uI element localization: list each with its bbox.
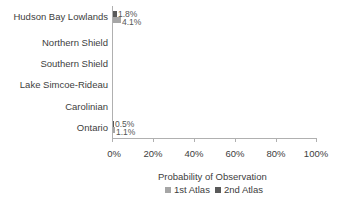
x-tick-label: 20% [143, 148, 162, 159]
category-label: Ontario [77, 122, 108, 133]
x-tick [153, 138, 154, 142]
category-label: Northern Shield [42, 37, 108, 48]
x-axis-line [112, 138, 317, 139]
x-tick [316, 138, 317, 142]
x-tick [235, 138, 236, 142]
category-label: Lake Simcoe-Rideau [20, 79, 108, 90]
x-tick-label: 40% [184, 148, 203, 159]
legend-swatch-2nd-atlas [215, 187, 221, 193]
legend: 1st Atlas 2nd Atlas [165, 184, 263, 195]
x-tick [276, 138, 277, 142]
y-axis-line [112, 6, 113, 138]
category-label: Southern Shield [40, 58, 108, 69]
x-tick-label: 0% [107, 148, 121, 159]
legend-label: 2nd Atlas [224, 184, 263, 195]
category-label: Carolinian [65, 101, 108, 112]
x-axis-title: Probability of Observation [158, 171, 267, 182]
bar-value-label: 1.1% [116, 128, 135, 136]
x-tick [194, 138, 195, 142]
x-tick-label: 80% [266, 148, 285, 159]
x-tick-label: 60% [225, 148, 244, 159]
x-tick [112, 138, 113, 142]
category-label: Hudson Bay Lowlands [13, 11, 108, 22]
x-tick-label: 100% [304, 148, 328, 159]
bar-value-label: 4.1% [122, 18, 141, 26]
legend-label: 1st Atlas [174, 184, 210, 195]
legend-swatch-1st-atlas [165, 187, 171, 193]
